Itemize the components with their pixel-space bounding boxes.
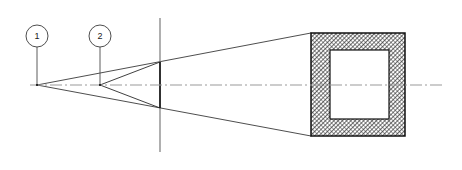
callout-2-label: 2 (97, 31, 102, 41)
apex-point-2 (99, 84, 101, 86)
apex-point-1 (36, 84, 38, 86)
callout-1-label: 1 (34, 31, 39, 41)
diagram-canvas: 1 2 (0, 0, 462, 170)
technical-drawing-svg: 1 2 (0, 0, 462, 170)
